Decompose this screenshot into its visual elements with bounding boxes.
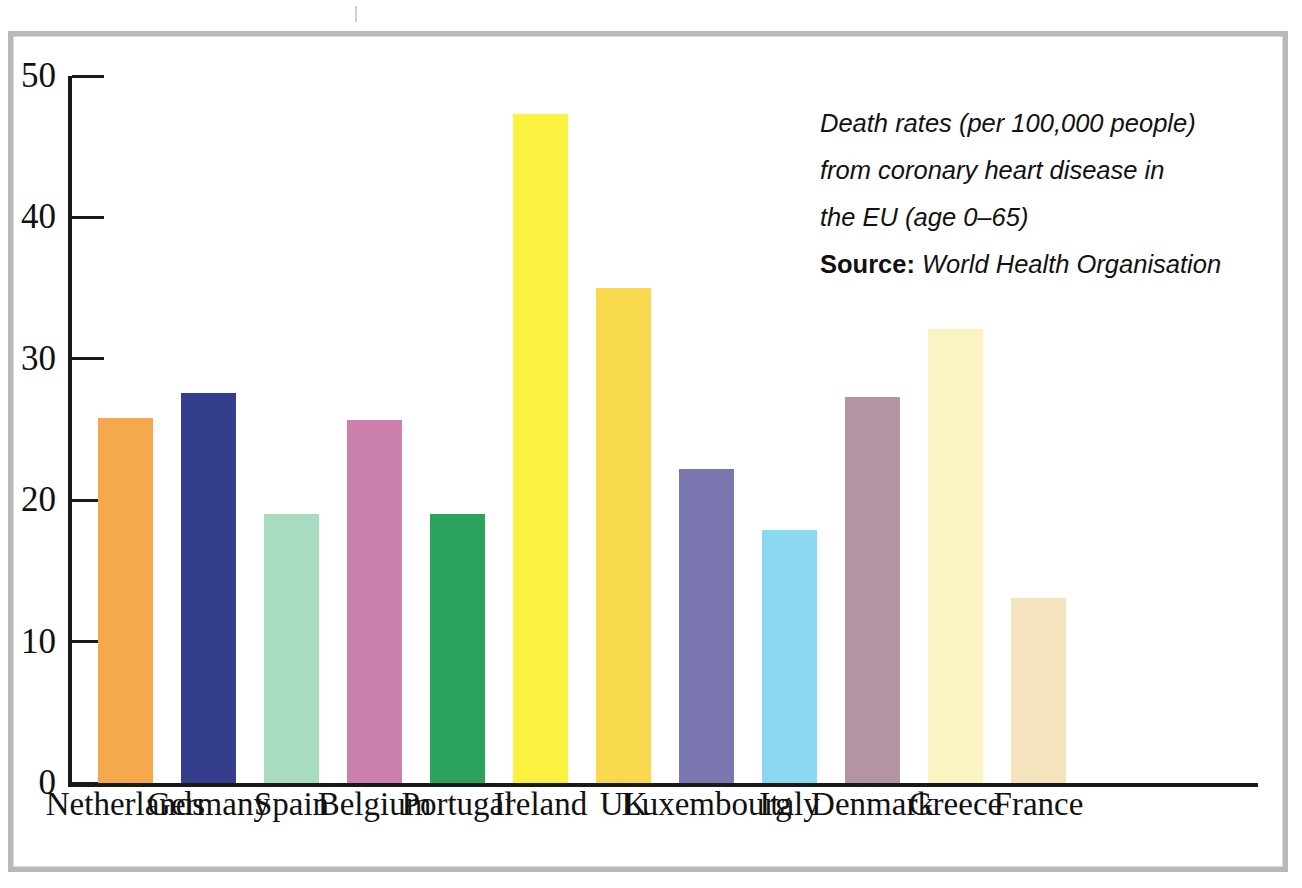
annotation-line-3: the EU (age 0–65): [820, 194, 1240, 241]
x-axis-category-label: Ireland: [494, 788, 587, 821]
x-axis-category-label: France: [994, 788, 1084, 821]
bar-group: Portugal: [416, 76, 499, 783]
y-tick-label: 40: [21, 199, 56, 234]
annotation-source: Source: World Health Organisation: [820, 241, 1240, 288]
scan-artifact: [355, 6, 357, 22]
source-value: World Health Organisation: [922, 250, 1221, 278]
bar-group: Italy: [748, 76, 831, 783]
bar: [762, 530, 817, 783]
annotation-line-2: from coronary heart disease in: [820, 147, 1240, 194]
bar: [513, 114, 568, 783]
bar: [98, 418, 153, 783]
bar-group: Luxembourg: [665, 76, 748, 783]
bar-group: Ireland: [499, 76, 582, 783]
y-tick-label: 50: [21, 58, 56, 93]
x-axis-category-label: Germany: [147, 788, 270, 821]
bar: [845, 397, 900, 783]
y-tick-label: 10: [21, 623, 56, 658]
bar: [928, 329, 983, 783]
annotation-line-1: Death rates (per 100,000 people): [820, 100, 1240, 147]
bar-group: UK: [582, 76, 665, 783]
bar: [679, 469, 734, 783]
bar-group: Spain: [250, 76, 333, 783]
bar-group: Belgium: [333, 76, 416, 783]
figure-page: 50403020100 NetherlandsGermanySpainBelgi…: [0, 0, 1302, 888]
source-label: Source:: [820, 250, 915, 278]
x-axis-category-label: Greece: [909, 788, 1002, 821]
y-tick-label: 30: [21, 341, 56, 376]
bar: [430, 514, 485, 783]
bar-group: Germany: [167, 76, 250, 783]
bar: [264, 514, 319, 783]
chart-annotation: Death rates (per 100,000 people) from co…: [820, 100, 1240, 288]
bar: [596, 288, 651, 783]
bar: [1011, 598, 1066, 783]
bar: [181, 393, 236, 783]
y-tick-label: 20: [21, 482, 56, 517]
bar: [347, 420, 402, 783]
bar-group: Netherlands: [84, 76, 167, 783]
